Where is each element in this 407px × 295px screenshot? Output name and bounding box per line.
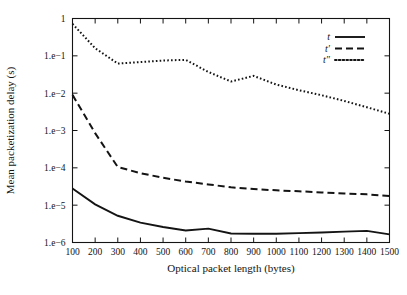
- x-tick-label: 1500: [380, 247, 399, 257]
- figure-container: 1002003004005006007008009001000110012001…: [0, 0, 407, 295]
- x-tick-label: 600: [179, 247, 194, 257]
- plot-frame: [73, 19, 390, 243]
- x-tick-label: 1400: [357, 247, 376, 257]
- x-tick-label: 1000: [267, 247, 286, 257]
- x-tick-label: 1100: [290, 247, 309, 257]
- y-tick-label: 1.e−1: [44, 51, 66, 61]
- y-axis-title: Mean packetization delay (s): [4, 66, 17, 194]
- y-tick-label: 1: [61, 14, 66, 24]
- y-tick-label: 1.e−4: [44, 163, 66, 173]
- y-tick-label: 1.e−2: [44, 89, 66, 99]
- packetization-delay-chart: 1002003004005006007008009001000110012001…: [0, 0, 407, 295]
- y-tick-label: 1.e−5: [44, 201, 66, 211]
- x-tick-label: 700: [201, 247, 216, 257]
- series-line-1: [73, 188, 390, 234]
- legend-label-1: t: [327, 31, 330, 42]
- y-tick-label: 1.e−6: [44, 238, 66, 248]
- x-tick-label: 100: [65, 247, 80, 257]
- legend-label-3: t″: [323, 54, 331, 65]
- x-axis-title: Optical packet length (bytes): [167, 262, 295, 275]
- x-tick-label: 1200: [312, 247, 331, 257]
- x-tick-label: 800: [224, 247, 239, 257]
- y-tick-label: 1.e−3: [44, 126, 66, 136]
- x-tick-label: 500: [156, 247, 171, 257]
- x-tick-label: 1300: [335, 247, 354, 257]
- x-tick-label: 300: [111, 247, 126, 257]
- x-tick-label: 200: [88, 247, 103, 257]
- x-tick-label: 900: [247, 247, 262, 257]
- series-line-2: [73, 95, 390, 196]
- x-tick-label: 400: [133, 247, 148, 257]
- legend-label-2: t′: [325, 43, 331, 54]
